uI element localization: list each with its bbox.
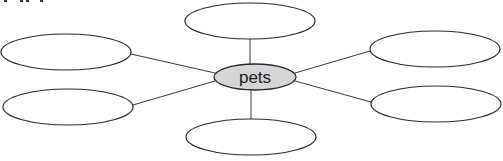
node-bottom[interactable] bbox=[186, 119, 316, 155]
node-ellipse[interactable] bbox=[1, 34, 131, 70]
node-ellipse[interactable] bbox=[3, 89, 133, 125]
node-ellipse[interactable] bbox=[370, 31, 500, 67]
node-right-top[interactable] bbox=[370, 31, 500, 67]
node-top[interactable] bbox=[185, 3, 315, 39]
node-left-bottom[interactable] bbox=[3, 89, 133, 125]
web-diagram: pets bbox=[0, 0, 503, 161]
node-right-bottom[interactable] bbox=[371, 86, 501, 122]
center-label: pets bbox=[239, 68, 271, 87]
node-ellipse[interactable] bbox=[185, 3, 315, 39]
node-ellipse[interactable] bbox=[186, 119, 316, 155]
node-ellipse[interactable] bbox=[371, 86, 501, 122]
edge-right-top bbox=[295, 51, 370, 73]
cropped-heading-remnant bbox=[4, 0, 43, 2]
edge-left-bottom bbox=[133, 81, 215, 105]
edge-right-bottom bbox=[295, 81, 371, 102]
edge-left-top bbox=[131, 54, 215, 73]
center-node: pets bbox=[214, 64, 296, 90]
node-left-top[interactable] bbox=[1, 34, 131, 70]
